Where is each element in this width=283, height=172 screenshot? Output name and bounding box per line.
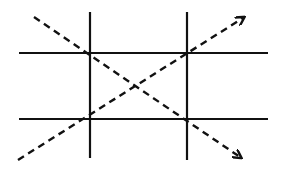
grid-diagram (0, 0, 283, 172)
solid-lines-group (19, 12, 268, 160)
arrow-down-right-icon (34, 17, 240, 157)
dashed-arrows-group (18, 17, 243, 160)
arrow-up-right-icon (18, 18, 243, 160)
